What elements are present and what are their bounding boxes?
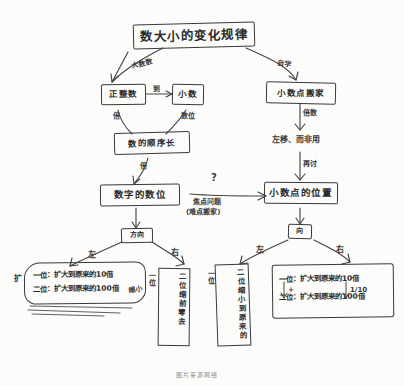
root-node-label: 数大小的变化规律 [140,28,248,44]
branch-label-right-from-root: 自学 [276,57,291,69]
leaf-note-right-line-2: 二位：扩大到原来的100倍 [279,287,387,306]
leaf-vertical-box-1-tail: 一位 [147,272,157,286]
leaf-note-right-mark-right: 1/10 [350,286,367,294]
direction-mark-right-b: 右 [336,243,344,254]
annotation-question-mark: ? [211,172,217,183]
leaf-note-left[interactable]: 一位：扩大到原来的10倍 二位：扩大到原来的100倍 [24,261,147,304]
direction-mark-right-a: 右 [171,246,179,257]
branch-label-left-chain-1: 倍 [113,110,120,120]
node-digit-value-label: 数字的数位 [114,190,167,201]
leaf-vertical-box-1-body: 缩前零去 [161,290,187,326]
worksheet-canvas: 数大小的变化规律 大数数 自学 正整数 到 小数 倍 数位 数的顺序长 倍 数字… [0,0,404,386]
direction-mark-left-b: 左 [256,243,264,254]
node-small-number[interactable]: 小数 [172,84,204,106]
leaf-note-left-line-1: 一位：扩大到原来的10倍 [33,267,139,283]
leaf-note-right-line-1: 一位：扩大到原来的10倍 [279,269,387,288]
annotation-line-2: (难点搬家) [186,206,220,216]
node-direction-left-label: 方向 [129,232,144,240]
node-big-number[interactable]: 正整数 [101,84,146,106]
node-direction-right-label: 向 [296,228,304,235]
image-caption: 图片来源网络 [176,370,218,379]
leaf-vertical-box-2-body: 缩小到原来的 [218,286,248,341]
root-node[interactable]: 数大小的变化规律 [133,22,256,50]
leaf-vertical-box-1[interactable]: 二位 缩前零去 [158,268,191,346]
node-decimal-position-label: 小数点的位置 [269,188,332,199]
leaf-note-left-line-2: 二位：扩大到原来的100倍 [33,282,139,298]
leaf-note-left-prefix: 扩 [14,272,22,283]
connector-lines [0,0,404,386]
node-small-number-label: 小数 [178,90,197,99]
node-big-number-label: 正整数 [109,90,138,99]
leaf-vertical-box-2[interactable]: 二位 缩小到原来的 [215,263,252,346]
annotation-line-1: 焦点问题 [193,196,221,206]
leaf-vertical-box-2-head: 二位 [218,268,247,287]
node-decimal-move[interactable]: 小数点搬家 [266,81,336,104]
inner-arrows [0,0,404,386]
node-order-box[interactable]: 数的顺序长 [114,131,191,155]
branch-label-right-chain-2: 再讨 [303,158,317,168]
branch-label-right-chain-1: 倍数 [303,107,317,117]
hatch-marks [0,0,404,386]
branch-label-left-chain-2: 数位 [181,110,195,120]
branch-label-left-from-root: 大数数 [130,56,153,70]
node-order-box-label: 数的顺序长 [128,138,176,148]
node-digit-value[interactable]: 数字的数位 [100,184,180,207]
node-decimal-position[interactable]: 小数点的位置 [264,182,338,205]
leaf-note-right-mark-left: + [288,286,294,294]
node-direction-right[interactable]: 向 [288,224,312,239]
leaf-vertical-box-2-tail: 一位 [206,270,216,284]
node-direction-left[interactable]: 方向 [121,228,153,244]
node-decimal-move-label: 小数点搬家 [277,88,325,98]
arrow-mid-label: 到 [153,83,160,93]
leaf-vertical-box-1-head: 二位 [161,272,187,290]
node-left-right-text: 左移、而非用 [272,133,320,144]
direction-mark-left-a: 左 [88,248,96,259]
branch-label-left-chain-3: 倍 [140,160,147,170]
